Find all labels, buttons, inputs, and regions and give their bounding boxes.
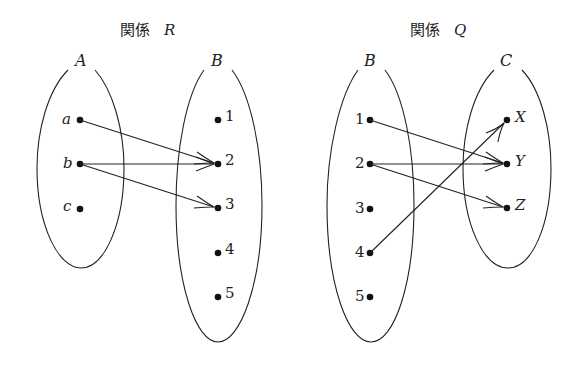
- element-c-dot: [77, 206, 84, 213]
- set-a-ellipse: [37, 70, 124, 268]
- element-a-label: a: [62, 110, 71, 128]
- relation-diagrams: 関係 R A B a b c 1 2 3 4 5: [0, 0, 581, 367]
- relation-r-title-prefix: 関係: [120, 21, 150, 39]
- relation-q-title-prefix: 関係: [410, 21, 440, 39]
- element-b-label: b: [63, 154, 73, 172]
- element-z-label: Z: [514, 196, 526, 214]
- arrow-2-to-y: [370, 157, 503, 171]
- element-x-dot: [504, 117, 511, 124]
- element-y-label: Y: [515, 152, 527, 170]
- arrow-a-to-2: [80, 120, 214, 164]
- element-3-dot: [215, 205, 222, 212]
- element-q4-label: 4: [355, 243, 365, 261]
- element-5-label: 5: [225, 284, 235, 302]
- element-x-label: X: [514, 108, 527, 126]
- element-q2-label: 2: [355, 154, 365, 172]
- element-y-dot: [504, 161, 511, 168]
- relation-r-title-var: R: [163, 21, 175, 39]
- element-q3-label: 3: [355, 199, 365, 217]
- element-q5-dot: [367, 294, 374, 301]
- arrow-b-to-2: [80, 157, 214, 171]
- element-1-dot: [215, 117, 222, 124]
- set-c-label: C: [500, 51, 512, 70]
- element-4-dot: [215, 250, 222, 257]
- set-a-label: A: [73, 51, 87, 70]
- relation-q-title-var: Q: [454, 21, 466, 39]
- element-q3-dot: [367, 206, 374, 213]
- element-z-dot: [504, 205, 511, 212]
- element-1-label: 1: [225, 107, 235, 125]
- set-b-label-q: B: [363, 51, 376, 70]
- relation-q-diagram: 関係 Q B C 1 2 3 4 5 X Y Z: [327, 21, 551, 342]
- element-2-label: 2: [225, 151, 235, 169]
- set-c-ellipse: [463, 70, 551, 268]
- set-b-label: B: [210, 51, 223, 70]
- element-q5-label: 5: [355, 287, 365, 305]
- element-c-label: c: [63, 197, 72, 215]
- element-2-dot: [215, 161, 222, 168]
- relation-r-diagram: 関係 R A B a b c 1 2 3 4 5: [37, 21, 262, 342]
- arrow-2-to-z: [370, 164, 503, 208]
- arrow-1-to-y: [370, 120, 503, 164]
- arrow-4-to-x: [370, 123, 504, 253]
- element-5-dot: [215, 294, 222, 301]
- element-3-label: 3: [225, 195, 235, 213]
- element-q1-label: 1: [355, 110, 365, 128]
- arrow-b-to-3: [80, 164, 214, 208]
- element-4-label: 4: [225, 240, 235, 258]
